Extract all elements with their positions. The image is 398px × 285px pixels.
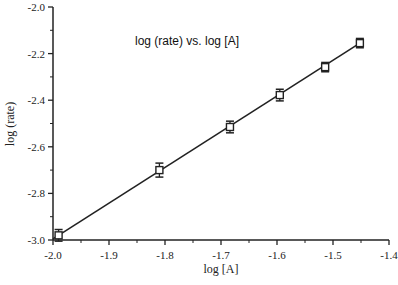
y-tick-label: -2.4 (28, 94, 46, 106)
data-point (55, 230, 63, 242)
x-tick-label: -1.6 (268, 249, 286, 261)
x-tick-label: -1.7 (212, 249, 230, 261)
x-tick-label: -2.0 (44, 249, 62, 261)
x-tick-label: -1.9 (100, 249, 118, 261)
data-point (356, 38, 364, 47)
y-tick-label: -3.0 (28, 234, 46, 246)
log-rate-chart: log (rate) vs. log [A] -2.0-1.9-1.8-1.7-… (0, 0, 398, 285)
y-tick-label: -2.8 (28, 187, 46, 199)
chart-title: log (rate) vs. log [A] (135, 34, 239, 48)
square-marker-icon (356, 40, 363, 47)
y-axis-title: log (rate) (3, 102, 17, 146)
square-marker-icon (276, 92, 283, 99)
y-tick-label: -2.0 (28, 1, 46, 13)
data-point (321, 62, 329, 71)
data-point (226, 121, 234, 133)
square-marker-icon (322, 64, 329, 71)
plot-area (53, 38, 364, 241)
data-point (155, 163, 163, 177)
x-tick-label: -1.4 (380, 249, 398, 261)
x-tick-label: -1.5 (324, 249, 342, 261)
y-tick-label: -2.6 (28, 141, 46, 153)
fit-line (53, 43, 360, 239)
square-marker-icon (226, 123, 233, 130)
x-axis-title: log [A] (204, 262, 239, 276)
x-tick-label: -1.8 (156, 249, 174, 261)
y-tick-label: -2.2 (28, 48, 45, 60)
data-point (276, 89, 284, 101)
square-marker-icon (156, 167, 163, 174)
square-marker-icon (55, 232, 62, 239)
